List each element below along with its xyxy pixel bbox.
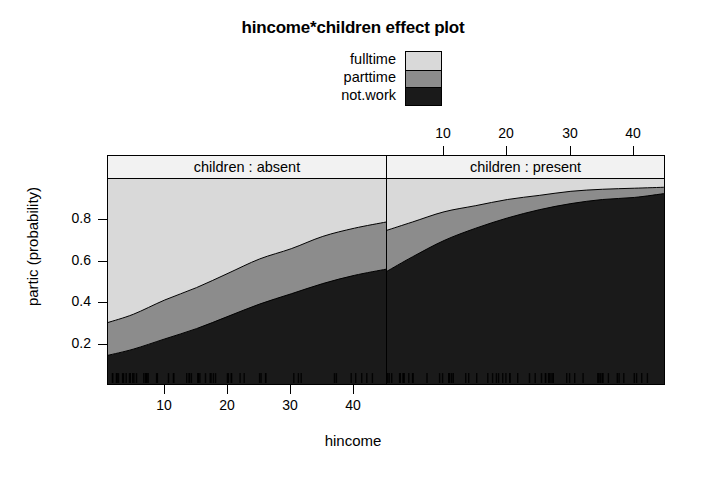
panel-strip-headers: children : absent children : present xyxy=(107,155,665,179)
y-tick-label: 0.8 xyxy=(51,210,91,226)
plot-area xyxy=(107,178,665,385)
y-tick-label: 0.6 xyxy=(51,252,91,268)
y-tick-mark xyxy=(98,302,107,303)
effect-plot-figure: hincome*children effect plot fulltime pa… xyxy=(0,0,706,477)
y-tick-mark xyxy=(98,344,107,345)
y-axis-title: partic (probability) xyxy=(24,152,41,342)
y-tick-label: 0.4 xyxy=(51,293,91,309)
x-tick-label-top: 30 xyxy=(550,125,590,141)
legend-label-not-work: not.work xyxy=(300,86,396,104)
x-tick-mark-bottom xyxy=(353,385,354,394)
legend: fulltime parttime not.work xyxy=(300,50,450,112)
legend-labels: fulltime parttime not.work xyxy=(300,50,396,104)
x-tick-mark-bottom xyxy=(227,385,228,394)
legend-swatch-not-work xyxy=(406,87,441,105)
x-tick-label-bottom: 40 xyxy=(333,397,373,413)
legend-swatch-parttime xyxy=(406,70,441,88)
legend-swatches xyxy=(405,51,442,106)
x-tick-mark-top xyxy=(570,146,571,155)
legend-label-fulltime: fulltime xyxy=(300,50,396,68)
panel-children-absent xyxy=(108,179,386,384)
x-tick-label-bottom: 20 xyxy=(207,397,247,413)
x-tick-mark-top xyxy=(633,146,634,155)
strip-label-present: children : present xyxy=(386,156,664,178)
panel-children-present xyxy=(387,179,665,384)
y-tick-mark xyxy=(98,219,107,220)
x-tick-label-top: 20 xyxy=(486,125,526,141)
x-tick-mark-top xyxy=(506,146,507,155)
x-tick-label-bottom: 30 xyxy=(270,397,310,413)
legend-swatch-fulltime xyxy=(406,52,441,70)
x-axis-title: hincome xyxy=(0,432,706,449)
x-tick-mark-bottom xyxy=(164,385,165,394)
panel-divider xyxy=(386,179,387,384)
legend-label-parttime: parttime xyxy=(300,68,396,86)
x-tick-label-top: 10 xyxy=(423,125,463,141)
x-tick-mark-bottom xyxy=(290,385,291,394)
x-tick-label-top: 40 xyxy=(613,125,653,141)
strip-label-absent: children : absent xyxy=(108,156,386,178)
y-tick-label: 0.2 xyxy=(51,335,91,351)
x-tick-label-bottom: 10 xyxy=(144,397,184,413)
page-title: hincome*children effect plot xyxy=(0,18,706,38)
y-tick-mark xyxy=(98,261,107,262)
x-tick-mark-top xyxy=(443,146,444,155)
rug-marks xyxy=(388,373,648,383)
